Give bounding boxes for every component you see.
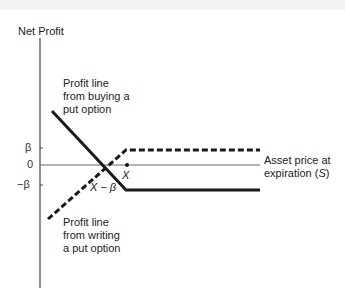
strike-label: X [122,169,129,182]
breakeven-text: X − β [90,181,116,193]
breakeven-label: X − β [90,181,116,194]
write-put-profit-line [48,150,260,219]
x-axis-label-suffix: ) [326,167,330,179]
x-axis-label-prefix: expiration ( [264,167,318,179]
buy-put-annotation-line3: put option [63,103,130,116]
x-axis-label-line1: Asset price at [264,154,331,167]
write-put-annotation-line1: Profit line [63,216,121,229]
buy-put-annotation: Profit line from buying a put option [63,77,130,116]
write-put-annotation: Profit line from writing a put option [63,216,121,255]
x-axis-variable: S [318,167,325,179]
strike-point-marker [125,163,129,167]
write-put-annotation-line3: a put option [63,242,121,255]
buy-put-profit-line [52,111,260,190]
tick-beta: β [25,141,31,153]
y-axis-label: Net Profit [18,25,64,38]
buy-put-annotation-line2: from buying a [63,90,130,103]
write-put-annotation-line2: from writing [63,229,121,242]
tick-zero: 0 [27,158,33,170]
buy-put-annotation-line1: Profit line [63,77,130,90]
x-axis-label-line2: expiration (S) [264,167,331,180]
diagram-canvas [0,0,345,305]
tick-neg-beta: −β [17,178,30,190]
x-axis-label: Asset price at expiration (S) [264,154,331,180]
